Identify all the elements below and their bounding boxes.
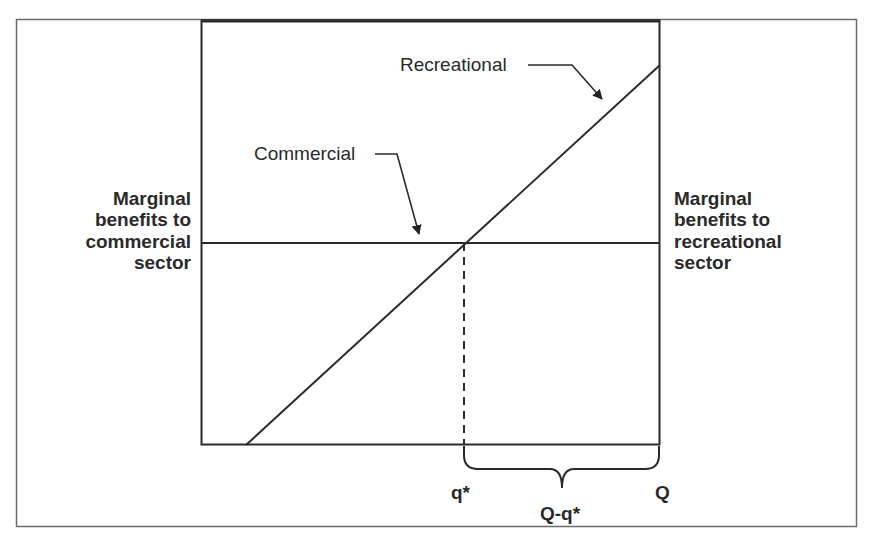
right-axis-label-line: sector	[674, 252, 844, 273]
left-axis-label-line: sector	[41, 252, 191, 273]
recreational-pointer-arrow	[528, 65, 602, 99]
right-axis-label-line: Marginal	[674, 188, 844, 209]
right-axis-label-line: benefits to	[674, 209, 844, 230]
left-axis-label: Marginal benefits to commercial sector	[41, 188, 191, 273]
left-axis-label-line: Marginal	[41, 188, 191, 209]
q-star-marker: q*	[451, 482, 470, 503]
brace-label: Q-q*	[540, 503, 580, 524]
plot-box	[202, 21, 660, 445]
left-axis-label-line: commercial	[41, 231, 191, 252]
q-minus-q-star-brace	[464, 446, 659, 488]
commercial-pointer-arrow	[375, 154, 419, 234]
left-axis-label-line: benefits to	[41, 209, 191, 230]
Q-marker: Q	[655, 482, 670, 503]
right-axis-label: Marginal benefits to recreational sector	[674, 188, 844, 273]
commercial-curve-label: Commercial	[254, 143, 355, 164]
right-axis-label-line: recreational	[674, 231, 844, 252]
recreational-curve-label: Recreational	[400, 54, 507, 75]
recreational-mb-line	[246, 65, 660, 445]
